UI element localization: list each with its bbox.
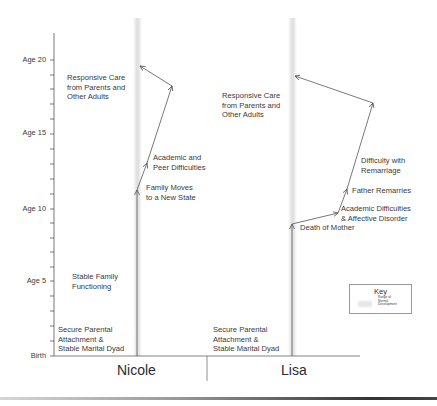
subject-name-nicole: Nicole <box>117 362 156 378</box>
subject-name-lisa: Lisa <box>281 362 307 378</box>
nicole-responsive-care-label: Responsive Care from Parents and Other A… <box>67 73 125 102</box>
lisa-secure-attachment-label: Secure Parental Attachment & Stable Mari… <box>213 325 279 354</box>
y-axis <box>50 33 54 356</box>
nicole-secure-attachment-label: Secure Parental Attachment & Stable Mari… <box>58 325 124 354</box>
axis-label-age-20: Age 20 <box>0 55 46 64</box>
legend-label-normal-range: Range of Normal Development <box>378 296 397 307</box>
legend-key: Key Range of Normal Development <box>349 284 412 314</box>
axis-label-age-5: Age 5 <box>0 276 46 285</box>
bottom-rule <box>0 397 437 400</box>
axis-label-age-15: Age 15 <box>0 128 46 137</box>
nicole-stable-family-label: Stable Family Functioning <box>72 272 118 291</box>
lisa-death-of-mother-label: Death of Mother <box>300 223 354 233</box>
legend-swatch-normal-range <box>358 301 372 307</box>
lisa-academic-affective-label: Academic Difficulties & Affective Disord… <box>341 204 411 223</box>
axis-label-age-10: Age 10 <box>0 204 46 213</box>
nicole-trajectory <box>137 66 172 356</box>
lisa-father-remarries-label: Father Remarries <box>352 186 411 196</box>
lisa-responsive-care-label: Responsive Care from Parents and Other A… <box>222 91 280 120</box>
axis-label-birth: Birth <box>0 351 46 360</box>
nicole-academic-peer-label: Academic and Peer Difficulties <box>153 153 206 172</box>
lisa-difficulty-remarriage-label: Difficulty with Remarriage <box>361 156 405 175</box>
nicole-family-moves-label: Family Moves to a New State <box>146 183 196 202</box>
